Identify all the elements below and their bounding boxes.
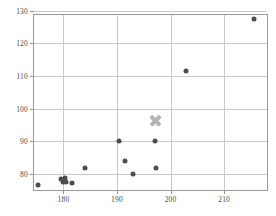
y-tick: [30, 11, 34, 12]
y-gridline: [34, 141, 267, 142]
x-tick: [171, 190, 172, 194]
scatter-point: [122, 158, 127, 163]
y-gridline: [34, 174, 267, 175]
y-tick: [30, 141, 34, 142]
y-tick-label: 80: [20, 169, 28, 178]
scatter-point: [70, 181, 75, 186]
x-gridline: [117, 15, 118, 190]
y-gridline: [34, 11, 267, 12]
x-gridline: [171, 15, 172, 190]
x-tick: [63, 190, 64, 194]
y-tick: [30, 109, 34, 110]
x-tick-label: 200: [165, 195, 177, 204]
scatter-point: [153, 166, 158, 171]
scatter-point: [82, 166, 87, 171]
scatter-point: [251, 17, 256, 22]
y-tick-label: 100: [16, 104, 28, 113]
scatter-point: [130, 171, 135, 176]
scatter-chart-figure: 1801902002108090100110120130: [0, 0, 276, 216]
y-tick-label: 90: [20, 137, 28, 146]
scatter-point: [64, 180, 69, 185]
y-tick-label: 110: [16, 71, 28, 80]
x-tick-label: 190: [111, 195, 123, 204]
highlight-x-marker: [149, 114, 162, 127]
y-tick: [30, 76, 34, 77]
plot-area: 1801902002108090100110120130: [33, 14, 268, 191]
y-tick-label: 120: [16, 39, 28, 48]
y-gridline: [34, 43, 267, 44]
scatter-point: [184, 69, 189, 74]
x-tick: [117, 190, 118, 194]
y-gridline: [34, 109, 267, 110]
x-gridline: [63, 15, 64, 190]
x-tick-label: 210: [218, 195, 230, 204]
y-tick: [30, 43, 34, 44]
y-tick-label: 130: [16, 6, 28, 15]
x-gridline: [224, 15, 225, 190]
x-tick-label: 180: [58, 195, 70, 204]
scatter-point: [36, 183, 41, 188]
x-tick: [224, 190, 225, 194]
scatter-point: [152, 139, 157, 144]
scatter-point: [117, 139, 122, 144]
y-tick: [30, 174, 34, 175]
y-gridline: [34, 76, 267, 77]
